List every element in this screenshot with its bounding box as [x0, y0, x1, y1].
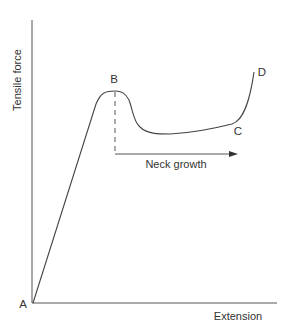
point-label-a: A [19, 298, 27, 310]
tensile-diagram: Tensile force Extension Neck growth A B … [0, 0, 289, 336]
point-label-b: B [110, 73, 118, 85]
point-label-c: C [234, 125, 242, 137]
neck-growth-label: Neck growth [145, 158, 206, 170]
x-axis-label: Extension [214, 310, 262, 322]
force-extension-curve [33, 72, 254, 303]
arrowhead-icon [229, 151, 238, 157]
y-axis-label: Tensile force [11, 49, 23, 111]
point-label-d: D [258, 66, 266, 78]
